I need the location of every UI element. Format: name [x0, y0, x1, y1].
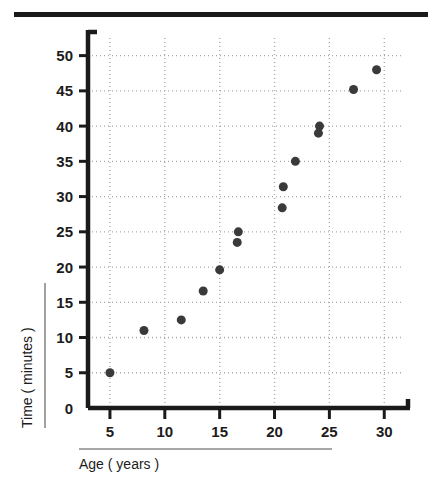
y-tick-label: 30	[56, 188, 73, 205]
data-point	[199, 287, 208, 296]
x-tick-label: 25	[321, 423, 338, 440]
data-point	[177, 315, 186, 324]
x-axis-label: Age ( years )	[79, 456, 159, 472]
x-tick-label: 20	[266, 423, 283, 440]
data-point	[105, 368, 114, 377]
data-point	[215, 265, 224, 274]
x-axis-ticks	[110, 409, 384, 419]
data-point	[233, 238, 242, 247]
data-point	[234, 227, 243, 236]
y-tick-label: 10	[56, 329, 73, 346]
scatter-chart-svg: 51015202530 05101520253035404550 Age ( y…	[0, 0, 437, 484]
plot-area: 51015202530 05101520253035404550 Age ( y…	[0, 0, 437, 484]
y-tick-label: 35	[56, 153, 73, 170]
data-point	[278, 203, 287, 212]
y-axis-label: Time ( minutes )	[19, 327, 35, 428]
y-tick-label: 45	[56, 82, 73, 99]
axis-lines	[88, 30, 410, 408]
y-tick-label: 0	[65, 400, 73, 417]
x-tick-label: 10	[156, 423, 173, 440]
x-tick-label: 30	[376, 423, 393, 440]
x-axis-tick-labels: 51015202530	[106, 423, 393, 440]
data-point	[279, 182, 288, 191]
scatter-plot-figure: 51015202530 05101520253035404550 Age ( y…	[0, 0, 437, 484]
x-tick-label: 15	[211, 423, 228, 440]
y-tick-label: 50	[56, 47, 73, 64]
y-tick-label: 15	[56, 294, 73, 311]
y-tick-label: 5	[65, 364, 73, 381]
grid-lines-vertical	[110, 38, 384, 408]
grid-lines-horizontal	[88, 56, 404, 373]
data-point	[349, 85, 358, 94]
data-point-markers	[105, 65, 381, 377]
data-point	[291, 157, 300, 166]
y-tick-label: 40	[56, 118, 73, 135]
y-axis-tick-labels: 05101520253035404550	[56, 47, 73, 416]
data-point	[372, 65, 381, 74]
data-point	[315, 122, 324, 131]
y-tick-label: 20	[56, 259, 73, 276]
x-tick-label: 5	[106, 423, 114, 440]
y-tick-label: 25	[56, 223, 73, 240]
data-point	[139, 326, 148, 335]
